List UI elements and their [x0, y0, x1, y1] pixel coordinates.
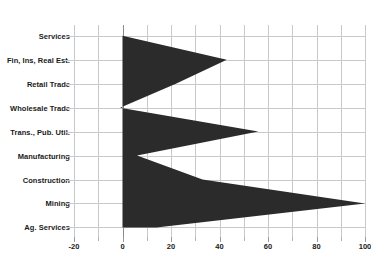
- xtick-label: 20: [167, 242, 175, 251]
- chart-container: ServicesFin, Ins, Real Est.Retail TradeW…: [0, 0, 371, 271]
- xtick-minor: [147, 237, 148, 241]
- xtick-label: 60: [264, 242, 272, 251]
- xtick-label: 0: [120, 242, 124, 251]
- xtick-minor: [195, 237, 196, 241]
- value-axis: -20020406080100: [0, 0, 371, 271]
- xtick-label: -20: [69, 242, 80, 251]
- xtick-minor: [292, 237, 293, 241]
- xtick-label: 100: [359, 242, 371, 251]
- xtick-minor: [244, 237, 245, 241]
- xtick-minor: [341, 237, 342, 241]
- xtick-minor: [98, 237, 99, 241]
- xtick-label: 40: [215, 242, 223, 251]
- xtick-label: 80: [312, 242, 320, 251]
